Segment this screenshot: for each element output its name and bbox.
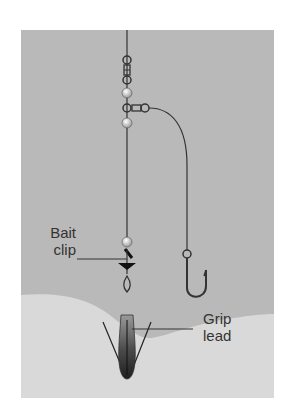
bead-icon — [122, 118, 132, 128]
lead-link — [124, 276, 130, 292]
bait-clip-label-line1: Bait — [36, 224, 76, 241]
bead-icon — [122, 237, 132, 247]
bait-clip-label-line2: clip — [36, 241, 76, 258]
grip-lead-label: Grip lead — [203, 310, 263, 344]
diagram-panel: Bait clip Grip lead — [21, 30, 274, 398]
bead-icon — [122, 88, 132, 98]
bait-clip-icon — [118, 249, 136, 274]
hook-snood — [149, 108, 187, 250]
grip-lead-label-line2: lead — [203, 327, 263, 344]
bait-clip-label: Bait clip — [36, 224, 76, 258]
grip-lead-label-line1: Grip — [203, 310, 263, 327]
hook-icon — [183, 250, 206, 297]
